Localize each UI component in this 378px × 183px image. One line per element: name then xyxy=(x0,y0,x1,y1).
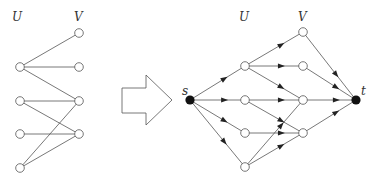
left-u-label: U xyxy=(12,10,23,24)
arrowhead-icon xyxy=(277,142,286,150)
edge xyxy=(303,32,356,100)
edge xyxy=(303,66,356,100)
node xyxy=(75,130,84,139)
edge xyxy=(190,66,245,100)
edge xyxy=(20,67,79,101)
edge xyxy=(245,32,303,66)
arrowhead-icon xyxy=(220,75,229,83)
arrowhead-icon xyxy=(333,97,340,102)
arrowhead-icon xyxy=(278,63,285,68)
edge xyxy=(20,134,79,168)
node xyxy=(299,96,308,105)
edge xyxy=(303,100,356,133)
edge xyxy=(20,101,79,134)
right-v-label: V xyxy=(298,10,308,24)
left-v-label: V xyxy=(74,10,84,24)
bipartite-to-flow-diagram: U V U V s t xyxy=(0,0,378,183)
arrowhead-icon xyxy=(332,70,340,79)
node xyxy=(75,29,84,38)
node xyxy=(16,63,25,72)
node xyxy=(241,163,250,172)
edge xyxy=(190,100,245,167)
sink-label: t xyxy=(361,84,366,98)
node xyxy=(241,62,250,71)
right-flow-network xyxy=(185,28,360,172)
arrowhead-icon xyxy=(277,41,286,49)
edge xyxy=(20,33,79,67)
edge xyxy=(245,133,303,167)
node xyxy=(299,28,308,37)
left-bipartite-graph xyxy=(16,29,84,173)
node xyxy=(299,62,308,71)
node xyxy=(16,164,25,173)
source-label: s xyxy=(182,84,188,98)
transform-arrow-icon xyxy=(122,75,172,125)
arrowhead-icon xyxy=(277,83,286,91)
sink-node xyxy=(351,95,360,104)
arrowhead-icon xyxy=(221,97,228,102)
node xyxy=(16,97,25,106)
node xyxy=(75,63,84,72)
node xyxy=(299,129,308,138)
arrowhead-icon xyxy=(278,97,285,102)
edge xyxy=(20,101,79,168)
edge xyxy=(245,100,303,133)
edge xyxy=(190,100,245,133)
edge xyxy=(245,66,303,100)
node xyxy=(16,130,25,139)
node xyxy=(75,97,84,106)
arrowhead-icon xyxy=(220,117,229,125)
node xyxy=(241,129,250,138)
arrowhead-icon xyxy=(277,117,286,125)
edge xyxy=(245,100,303,167)
arrowhead-icon xyxy=(332,108,341,116)
arrowhead-icon xyxy=(332,83,341,91)
arrowhead-icon xyxy=(278,130,285,135)
right-u-label: U xyxy=(239,10,250,24)
node xyxy=(241,96,250,105)
